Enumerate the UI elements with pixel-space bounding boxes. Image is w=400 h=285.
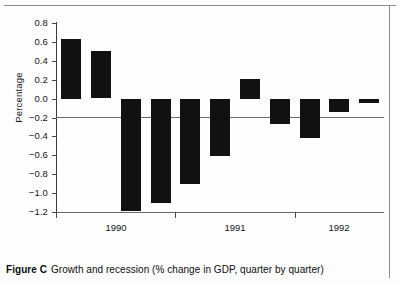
y-tick-mark bbox=[52, 42, 57, 43]
bar-chart-plot-area: 0.80.60.40.20.0−0.2−0.4−0.6−0.8−1.0−1.2 … bbox=[0, 0, 400, 285]
bar bbox=[210, 99, 230, 156]
x-tick-mark bbox=[175, 212, 176, 218]
x-tick-mark bbox=[295, 212, 296, 218]
y-tick-mark bbox=[52, 61, 57, 62]
bar bbox=[91, 51, 111, 98]
y-tick-label-text: −1.0 bbox=[29, 187, 48, 198]
bar bbox=[240, 79, 260, 99]
y-tick-mark bbox=[52, 99, 57, 100]
bar bbox=[180, 99, 200, 184]
figure-caption: Figure CGrowth and recession (% change i… bbox=[6, 264, 324, 275]
figure-caption-label: Figure C bbox=[6, 264, 47, 275]
y-tick-label-text: 0.8 bbox=[34, 17, 48, 28]
y-tick-mark bbox=[52, 174, 57, 175]
y-axis-title: Percentage bbox=[13, 58, 24, 138]
figure-caption-text: Growth and recession (% change in GDP, q… bbox=[51, 264, 324, 275]
y-tick-label-text: −0.6 bbox=[29, 149, 48, 160]
y-tick-label-text: 0.4 bbox=[34, 55, 48, 66]
y-tick-label-text: 0.2 bbox=[34, 74, 48, 85]
y-tick-mark bbox=[52, 193, 57, 194]
bar bbox=[151, 99, 171, 203]
y-tick-label-text: 0.0 bbox=[34, 93, 48, 104]
y-tick-mark bbox=[52, 118, 57, 119]
bar bbox=[270, 99, 290, 124]
y-tick-label-text: 0.6 bbox=[34, 36, 48, 47]
x-tick-label: 1991 bbox=[224, 222, 245, 233]
y-tick-label-text: −1.2 bbox=[29, 206, 48, 217]
x-axis-line bbox=[56, 212, 384, 213]
x-tick-label: 1992 bbox=[328, 222, 349, 233]
y-tick-label-text: −0.4 bbox=[29, 130, 48, 141]
bar bbox=[61, 39, 81, 99]
x-tick-label: 1990 bbox=[105, 222, 126, 233]
y-tick-label-text: −0.2 bbox=[29, 112, 48, 123]
bar bbox=[121, 99, 141, 211]
y-tick-mark bbox=[52, 80, 57, 81]
bar bbox=[329, 99, 349, 112]
y-tick-mark bbox=[52, 136, 57, 137]
x-tick-mark bbox=[56, 212, 57, 218]
figure-container: 0.80.60.40.20.0−0.2−0.4−0.6−0.8−1.0−1.2 … bbox=[0, 0, 400, 285]
bar bbox=[300, 99, 320, 138]
y-tick-label-text: −0.8 bbox=[29, 168, 48, 179]
bar bbox=[359, 99, 379, 103]
y-tick-mark bbox=[52, 155, 57, 156]
y-tick-mark bbox=[52, 23, 57, 24]
